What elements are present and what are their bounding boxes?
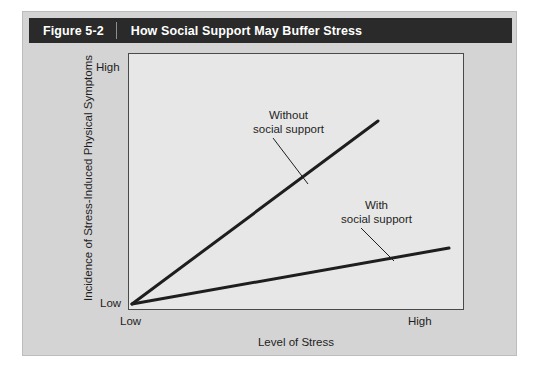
series-label-with-social-support: With social support xyxy=(341,199,412,226)
y-axis-tick-low: Low xyxy=(100,297,121,309)
figure-card: Figure 5-2 How Social Support May Buffer… xyxy=(22,11,517,356)
figure-number: Figure 5-2 xyxy=(29,24,116,38)
series-label-without-social-support: Without social support xyxy=(253,109,324,136)
series-label-with-line2: social support xyxy=(341,213,412,227)
series-label-with-line1: With xyxy=(341,199,412,213)
x-axis-tick-high: High xyxy=(408,315,432,327)
series-label-without-line1: Without xyxy=(253,109,324,123)
x-axis-tick-low: Low xyxy=(120,315,141,327)
x-axis-title: Level of Stress xyxy=(128,336,464,348)
y-axis-tick-high: High xyxy=(96,61,120,73)
series-label-without-line2: social support xyxy=(253,123,324,137)
figure-titlebar: Figure 5-2 How Social Support May Buffer… xyxy=(29,18,512,43)
figure-title: How Social Support May Buffer Stress xyxy=(117,24,362,38)
y-axis-title: Incidence of Stress-Induced Physical Sym… xyxy=(82,53,94,303)
plot-area xyxy=(128,53,464,310)
